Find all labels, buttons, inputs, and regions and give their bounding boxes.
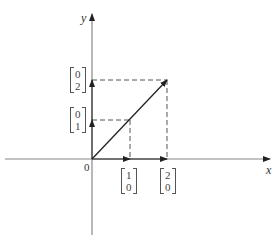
- x-axis-label: x: [266, 164, 271, 176]
- entry-bottom: 1: [75, 120, 81, 132]
- entry-bottom: 2: [75, 80, 81, 92]
- vector-label-2-0: 2 0: [160, 168, 176, 194]
- entry-bottom: 0: [126, 181, 132, 193]
- vector-label-0-2: 0 2: [70, 67, 86, 93]
- entry-bottom: 0: [165, 181, 171, 193]
- origin-label: 0: [84, 162, 90, 173]
- y-axis-label: y: [81, 12, 86, 24]
- vector-label-0-1: 0 1: [70, 107, 86, 133]
- coordinate-diagram: [0, 0, 277, 245]
- entry-top: 2: [165, 169, 171, 181]
- entry-top: 0: [75, 68, 81, 80]
- vector-label-1-0: 1 0: [121, 168, 137, 194]
- entry-top: 0: [75, 108, 81, 120]
- entry-top: 1: [126, 169, 132, 181]
